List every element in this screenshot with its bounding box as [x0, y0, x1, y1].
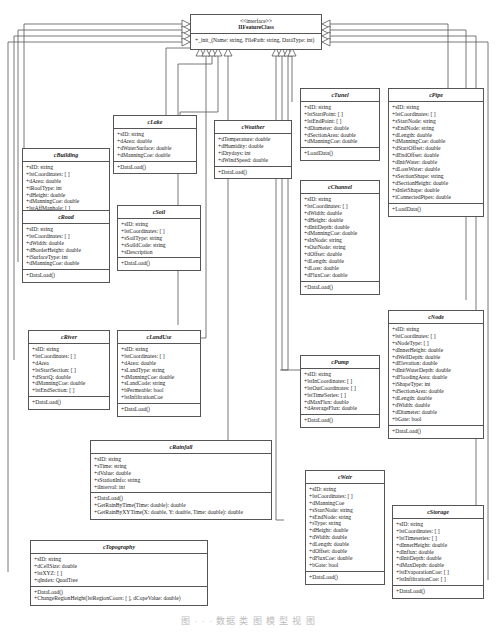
- class-attribute: +sTime: string: [94, 463, 268, 470]
- class-attributes: +sID: string+lstCoordinates: [ ]+dArea: …: [23, 162, 109, 215]
- class-attribute: +sSectionShape: string: [392, 173, 480, 180]
- class-attribute: +dLength: double: [392, 132, 480, 139]
- class-attribute: +dMaxDepth: double: [396, 562, 480, 569]
- class-attribute: +sLandType: string: [121, 367, 197, 374]
- class-operation: +DataLoad(): [396, 588, 480, 595]
- class-attribute: +dSectionArea: double: [392, 388, 480, 395]
- class-name: cWeather: [215, 121, 291, 134]
- class-attribute: +sID: string: [117, 131, 193, 138]
- class-operations: +DataLoad(): [118, 404, 200, 416]
- class-attribute: +sID: string: [121, 221, 197, 228]
- class-attribute: +dManningCoe: double: [304, 230, 376, 237]
- class-operations: +DataLoad(): [301, 282, 379, 294]
- class-name: cRiver: [29, 331, 109, 344]
- class-attribute: +sStationInfo: string: [94, 477, 268, 484]
- class-attribute: +lstEndSection: [ ]: [32, 387, 106, 394]
- class-attributes: +sID: string+lstCoordinates: [ ]+lstTime…: [393, 519, 483, 586]
- class-attribute: +dLength: double: [392, 395, 480, 402]
- class-attribute: +dOffset: double: [304, 251, 376, 258]
- class-operations: +LoadData(): [301, 148, 379, 160]
- class-attribute: +lstCoordinates: [ ]: [304, 203, 376, 210]
- class-attribute: +lstOutCoordinates: [ ]: [304, 385, 376, 392]
- class-attribute: +sID: string: [32, 346, 106, 353]
- class-attribute: +sDescription: [121, 249, 197, 256]
- class-name: cRainfall: [91, 441, 271, 454]
- class-attribute: +dInitWater: double: [392, 159, 480, 166]
- class-operations: +DataLoad(): [29, 397, 109, 409]
- class-croad: cRoad+sID: string+lstCoordinates: [ ]+dW…: [22, 210, 110, 283]
- class-attribute: +sStartNode: string: [309, 507, 381, 514]
- class-attribute: +dWellDepth: double: [392, 354, 480, 361]
- class-attribute: +sID: string: [396, 521, 480, 528]
- class-name: cChannel: [301, 181, 379, 194]
- class-attribute: +dWindSpeed: double: [218, 157, 288, 164]
- class-cchannel: cChannel+sID: string+lstCoordinates: [ ]…: [300, 180, 380, 295]
- class-attribute: +dManningCoe: [309, 500, 381, 507]
- class-operation: +DataLoad(): [121, 260, 197, 267]
- class-operations: +DataLoad(): [301, 415, 379, 427]
- class-attribute: +iSurfaceType: int: [26, 254, 106, 261]
- class-attribute: +sID: string: [304, 371, 376, 378]
- class-operations: +DataLoad()+GetRainByTime(Time: double):…: [91, 493, 271, 519]
- class-attribute: +sID: string: [26, 164, 106, 171]
- class-attributes: +sID: string+lstCoordinates: [ ]+dWidth:…: [23, 224, 109, 270]
- class-operation: +GetRainByTime(Time: double): double: [94, 502, 268, 509]
- class-attributes: +sID: string+lstCoordinates: [ ]+dMannin…: [306, 484, 384, 572]
- class-name: cLandUse: [118, 331, 200, 344]
- class-attribute: +bGate: bool: [392, 416, 480, 423]
- class-attribute: +sStartNode: string: [392, 118, 480, 125]
- class-attribute: +sID: string: [26, 226, 106, 233]
- class-operations: +DataLoad(): [389, 426, 483, 438]
- class-attribute: +bPermeable: bool: [121, 387, 197, 394]
- interface-ifeatureclass: <<interface>> IIFeatureClass +_init_(Nam…: [190, 14, 322, 50]
- class-attribute: +dManningCoe: double: [392, 138, 480, 145]
- connector-channel: [280, 56, 288, 370]
- class-attribute: +sEndNode: string: [309, 514, 381, 521]
- class-attribute: +iShapeType: int: [392, 381, 480, 388]
- class-operation: +DataLoad(): [304, 284, 376, 291]
- connector-rainfall: [206, 56, 228, 468]
- class-attribute: +sID: string: [392, 326, 480, 333]
- class-attribute: +dElevation: double: [392, 360, 480, 367]
- class-attribute: +dSectionHeight: double: [392, 180, 480, 187]
- class-attribute: +dFluxCoe: double: [304, 272, 376, 279]
- class-attribute: +dBorderHeight: double: [26, 247, 106, 254]
- class-attribute: +lstCoordinates: [ ]: [32, 353, 106, 360]
- class-name: cPump: [301, 356, 379, 369]
- class-attribute: +dValue: double: [94, 470, 268, 477]
- interface-operation: +_init_(Name: string, FilePath: string, …: [191, 34, 321, 49]
- class-name: cRoad: [23, 211, 109, 224]
- class-cpipe: cPipe+sID: string+lstCoordinates: [ ]+sS…: [388, 88, 484, 217]
- class-attribute: +iConnectedPipes: double: [392, 194, 480, 201]
- class-attribute: +sSoilType: string: [121, 235, 197, 242]
- class-operations: +DataLoad(): [118, 258, 200, 270]
- class-attribute: +sID: string: [392, 104, 480, 111]
- class-attribute: +dSectionArea: double: [304, 132, 376, 139]
- class-attribute: +dDiameter: double: [304, 125, 376, 132]
- class-cweather: cWeather+dTemperature: double+dHumidity:…: [214, 120, 292, 179]
- class-attribute: +sOutNode: string: [304, 244, 376, 251]
- class-attribute: +dHumidity: double: [218, 143, 288, 150]
- class-operation: +GetRainByXYTime(X: double, Y: double, T…: [94, 509, 268, 516]
- class-attribute: +lstCoordinates: [ ]: [26, 171, 106, 178]
- class-attribute: +lstCoordinates: [ ]: [309, 493, 381, 500]
- class-ctopography: cTopography+sID: string+dCellSize: doubl…: [30, 540, 208, 606]
- class-attribute: +sID: string: [34, 556, 204, 563]
- class-attribute: +lstXYZ: [ ]: [34, 570, 204, 577]
- class-operations: +LoadData(): [389, 204, 483, 216]
- class-attribute: +dInnerHeight: double: [392, 347, 480, 354]
- class-attribute: +dInitDepth: double: [396, 555, 480, 562]
- class-attribute: +dLength: double: [304, 258, 376, 265]
- class-operation: +DataLoad(): [117, 164, 193, 171]
- class-clanduse: cLandUse+sID: string+lstCoordinates: [ ]…: [117, 330, 201, 417]
- class-operation: +DataLoad(): [309, 574, 381, 581]
- class-attribute: +sNodeType: [ ]: [392, 340, 480, 347]
- class-attributes: +sID: string+dArea: double+dWaterSurface…: [114, 129, 196, 162]
- class-attributes: +sID: string+lstCoordinates: [ ]+sNodeTy…: [389, 324, 483, 426]
- class-attribute: +sType: string: [309, 520, 381, 527]
- class-attribute: +sLandCode: string: [121, 380, 197, 387]
- class-operations: +DataLoad()+ChangeRegionHeight(lstRegion…: [31, 587, 207, 606]
- arrowhead: [182, 38, 190, 46]
- class-operations: +DataLoad(): [23, 270, 109, 282]
- class-operation: +DataLoad(): [218, 169, 288, 176]
